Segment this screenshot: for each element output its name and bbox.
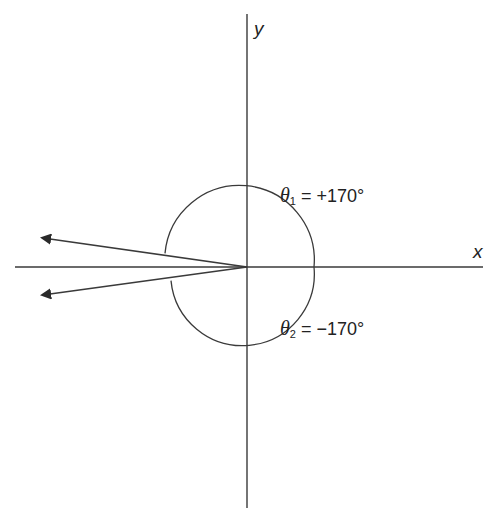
theta2-symbol: θ xyxy=(280,317,290,339)
vector-theta2 xyxy=(50,267,247,294)
vector-theta1 xyxy=(50,239,247,267)
angle-diagram: y x θ1 = +170° θ2 = −170° xyxy=(0,0,502,527)
theta2-label: θ2 = −170° xyxy=(280,317,364,340)
theta1-symbol: θ xyxy=(280,184,290,206)
theta1-label: θ1 = +170° xyxy=(280,184,364,207)
theta1-value: = +170° xyxy=(296,186,364,206)
y-axis-label: y xyxy=(254,18,264,40)
diagram-canvas xyxy=(0,0,502,527)
x-axis-label: x xyxy=(473,241,483,263)
theta2-value: = −170° xyxy=(296,319,364,339)
